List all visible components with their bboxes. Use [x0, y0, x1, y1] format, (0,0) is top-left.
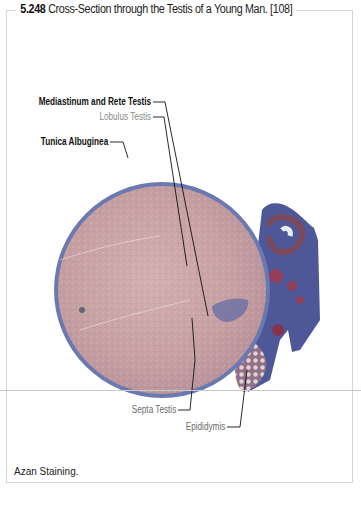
testis-body	[54, 182, 270, 398]
label-mediastinum: Mediastinum and Rete Testis	[39, 96, 151, 107]
label-epididymis: Epididymis	[185, 421, 225, 432]
figure-caption: Azan Staining.	[14, 466, 79, 477]
label-tunica-albuginea: Tunica Albuginea	[41, 136, 108, 147]
testis-histology-image	[0, 0, 361, 524]
divider-line	[0, 390, 361, 391]
label-lobulus-testis: Lobulus Testis	[99, 111, 151, 122]
label-septa-testis: Septa Testis	[131, 404, 176, 415]
